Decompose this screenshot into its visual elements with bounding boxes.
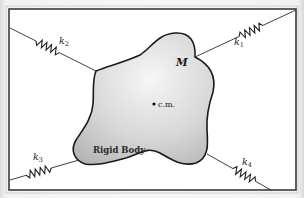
rigid-body-caption: Rigid Body xyxy=(93,145,146,155)
spring-mass-diagram: M c.m. Rigid Body k1 k2 k3 k4 xyxy=(0,0,304,198)
mass-label: M xyxy=(175,56,188,68)
diagram-page: M c.m. Rigid Body k1 k2 k3 k4 xyxy=(0,0,304,198)
center-of-mass-dot-icon xyxy=(152,102,155,105)
center-of-mass-label: c.m. xyxy=(158,100,175,109)
